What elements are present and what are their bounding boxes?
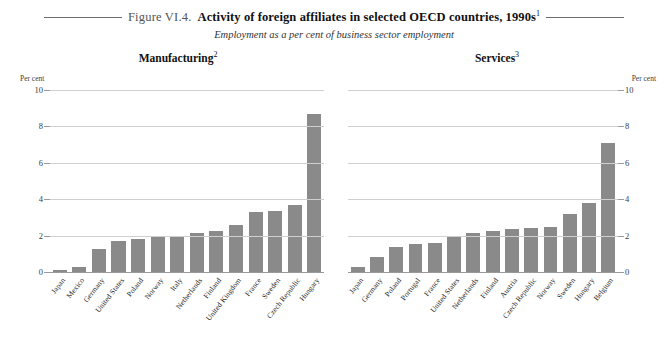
x-label-slot: Portugal: [406, 274, 425, 344]
x-label-slot: Germany: [367, 274, 386, 344]
bar[interactable]: [288, 205, 302, 272]
tickmark-2: [618, 236, 624, 237]
bar[interactable]: [486, 231, 500, 272]
bar[interactable]: [249, 212, 263, 272]
bar[interactable]: [409, 244, 423, 272]
x-label-slot: United States: [109, 274, 129, 344]
y-axis-tick-label: 0: [625, 268, 629, 277]
tickmark-8: [618, 126, 624, 127]
bar-slot[interactable]: [109, 90, 129, 272]
bar[interactable]: [268, 211, 282, 272]
x-label-slot: Finland: [483, 274, 502, 344]
bar-slot[interactable]: [541, 90, 560, 272]
gridline-8: [348, 126, 618, 127]
bar[interactable]: [307, 114, 321, 272]
plot-area-manufacturing: 1086420: [50, 90, 324, 272]
bar-slot[interactable]: [560, 90, 579, 272]
bar-slot[interactable]: [285, 90, 305, 272]
x-label-slot: Hungary: [579, 274, 598, 344]
gridline-0: [348, 272, 618, 273]
bar[interactable]: [111, 241, 125, 272]
figure-title: Activity of foreign affiliates in select…: [198, 10, 541, 25]
gridline-10: [50, 90, 324, 91]
y-axis-tick-label: 2: [625, 232, 629, 241]
bar-slot[interactable]: [167, 90, 187, 272]
x-axis-tick-label: Italy: [168, 276, 184, 293]
gridline-4: [50, 199, 324, 200]
bar-slot[interactable]: [226, 90, 246, 272]
x-label-slot: Hungary: [305, 274, 325, 344]
bar-slot[interactable]: [406, 90, 425, 272]
bar-slot[interactable]: [50, 90, 70, 272]
bar[interactable]: [524, 228, 538, 272]
figure-number-label: Figure VI.4.: [128, 10, 192, 25]
bar-slot[interactable]: [367, 90, 386, 272]
y-axis-tick-label: 8: [625, 122, 629, 131]
bar-slot[interactable]: [387, 90, 406, 272]
bar[interactable]: [582, 203, 596, 272]
y-axis-tick-label: 10: [625, 86, 634, 95]
bar-slot[interactable]: [348, 90, 367, 272]
bar-slot[interactable]: [599, 90, 618, 272]
title-rule-left: [44, 17, 122, 18]
bar[interactable]: [389, 247, 403, 272]
panel-manufacturing-title: Manufacturing2: [6, 52, 332, 64]
bar[interactable]: [466, 233, 480, 272]
x-axis-tick-label: Japan: [347, 276, 365, 295]
bar[interactable]: [428, 243, 442, 272]
bar-slot[interactable]: [128, 90, 148, 272]
bar-slot[interactable]: [305, 90, 325, 272]
x-label-slot: Mexico: [70, 274, 90, 344]
bar[interactable]: [151, 237, 165, 272]
bar[interactable]: [370, 257, 384, 272]
bar-slot[interactable]: [425, 90, 444, 272]
panel-services: Services3 Per cent 1086420 JapanGermanyP…: [338, 52, 662, 344]
tickmark-4: [44, 199, 50, 200]
bar[interactable]: [447, 236, 461, 272]
bar-slot[interactable]: [70, 90, 90, 272]
bar[interactable]: [229, 225, 243, 272]
figure-title-footnote-marker: 1: [536, 8, 540, 17]
bar[interactable]: [170, 236, 184, 272]
y-axis-tick-label: 6: [39, 159, 43, 168]
x-label-slot: United Kingdom: [226, 274, 246, 344]
bar-slot[interactable]: [207, 90, 227, 272]
bar-slot[interactable]: [502, 90, 521, 272]
gridline-6: [50, 163, 324, 164]
bar-slot[interactable]: [579, 90, 598, 272]
y-axis-tick-label: 2: [39, 232, 43, 241]
bar-slot[interactable]: [464, 90, 483, 272]
tickmark-2: [44, 236, 50, 237]
title-rule-right: [546, 17, 624, 18]
bar-slot[interactable]: [444, 90, 463, 272]
bar-slot[interactable]: [246, 90, 266, 272]
panel-services-title: Services3: [338, 52, 662, 64]
x-label-slot: Czech Republic: [522, 274, 541, 344]
bar[interactable]: [544, 227, 558, 272]
y-axis-tick-label: 4: [625, 195, 629, 204]
bar[interactable]: [563, 214, 577, 272]
gridline-2: [348, 236, 618, 237]
bar-slot[interactable]: [522, 90, 541, 272]
bar[interactable]: [209, 231, 223, 272]
panel-services-footnote-marker: 3: [515, 50, 519, 59]
bar-slot[interactable]: [187, 90, 207, 272]
x-label-slot: Netherlands: [464, 274, 483, 344]
bar-slot[interactable]: [265, 90, 285, 272]
x-axis-labels-manufacturing: JapanMexicoGermanyUnited StatesPolandNor…: [50, 274, 324, 344]
bar-slot[interactable]: [483, 90, 502, 272]
bar[interactable]: [131, 239, 145, 272]
bar-slot[interactable]: [148, 90, 168, 272]
gridline-4: [348, 199, 618, 200]
x-label-slot: Poland: [128, 274, 148, 344]
bar[interactable]: [92, 249, 106, 272]
gridline-8: [50, 126, 324, 127]
bar-slot[interactable]: [89, 90, 109, 272]
figure-title-text: Activity of foreign affiliates in select…: [198, 10, 536, 24]
y-axis-tick-label: 10: [35, 86, 44, 95]
tickmark-10: [618, 90, 624, 91]
tickmark-8: [44, 126, 50, 127]
x-label-slot: Italy: [167, 274, 187, 344]
x-label-slot: Norway: [148, 274, 168, 344]
bar[interactable]: [190, 233, 204, 272]
